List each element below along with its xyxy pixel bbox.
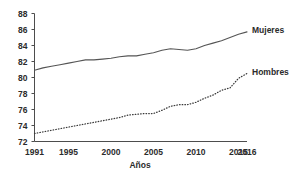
series-line-mujeres — [35, 32, 248, 70]
series-line-hombres — [35, 74, 248, 134]
y-tick-label: 88 — [18, 9, 28, 19]
y-axis: 727476788082848688 — [18, 9, 34, 147]
y-tick-label: 76 — [18, 105, 28, 115]
x-tick-label: 1995 — [59, 147, 78, 157]
y-tick-label: 78 — [18, 89, 28, 99]
y-tick-label: 86 — [18, 25, 28, 35]
x-axis-tick-labels: 1991199520002005201020152016 — [25, 147, 257, 157]
x-tick-label: 2010 — [187, 147, 206, 157]
y-axis-tick-labels: 727476788082848688 — [18, 9, 28, 147]
legend: Mujeres Hombres — [252, 25, 289, 77]
y-tick-label: 74 — [18, 121, 28, 131]
y-tick-label: 72 — [18, 137, 28, 147]
y-tick-label: 82 — [18, 57, 28, 67]
x-tick-label: 2016 — [238, 147, 257, 157]
x-tick-label: 2005 — [144, 147, 163, 157]
chart-canvas: 727476788082848688 199119952000200520102… — [0, 0, 306, 179]
y-tick-label: 84 — [18, 41, 28, 51]
x-tick-label: 1991 — [25, 147, 44, 157]
x-axis-title: Años — [129, 160, 151, 170]
x-tick-label: 2000 — [102, 147, 121, 157]
life-expectancy-line-chart: 727476788082848688 199119952000200520102… — [0, 0, 306, 179]
series-label-hombres: Hombres — [252, 67, 289, 77]
series-label-mujeres: Mujeres — [252, 25, 284, 35]
data-series-group — [35, 32, 248, 134]
y-tick-label: 80 — [18, 73, 28, 83]
x-axis: 1991199520002005201020152016 Años — [25, 142, 257, 171]
